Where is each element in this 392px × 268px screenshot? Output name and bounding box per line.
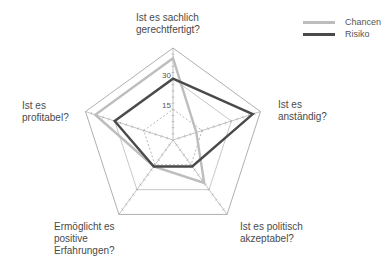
legend-item-risiko: Risiko xyxy=(303,28,381,40)
legend-item-chancen: Chancen xyxy=(303,16,381,28)
radar-series xyxy=(95,58,252,183)
axis-label-erfahrungen: Ermöglicht es positive Erfahrungen? xyxy=(54,221,115,257)
radar-tick-labels: 1530 xyxy=(162,71,171,111)
legend: Chancen Risiko xyxy=(303,16,381,40)
axis-label-sachlich: Ist es sachlich gerechtfertigt? xyxy=(136,12,200,36)
axis-label-politisch: Ist es politisch akzeptabel? xyxy=(240,221,303,245)
legend-swatch-risiko xyxy=(303,33,335,36)
legend-label-risiko: Risiko xyxy=(345,29,370,39)
svg-text:30: 30 xyxy=(162,71,171,80)
svg-text:15: 15 xyxy=(162,101,171,110)
legend-label-chancen: Chancen xyxy=(345,17,381,27)
legend-swatch-chancen xyxy=(303,21,335,24)
axis-label-anstaendig: Ist es anständig? xyxy=(278,99,327,123)
axis-label-profitabel: Ist es profitabel? xyxy=(22,100,69,124)
